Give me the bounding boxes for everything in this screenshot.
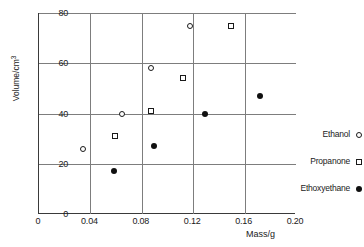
- x-tick-label: 0.12: [170, 217, 214, 226]
- legend-item-label: Ethanol: [323, 130, 350, 139]
- gridline-vertical: [90, 13, 91, 214]
- legend-marker-glyph: [356, 159, 362, 165]
- x-tick-label: 0.08: [119, 217, 163, 226]
- legend-item-ethanol[interactable]: Ethanol: [323, 130, 362, 139]
- data-point-ethanol: [187, 23, 193, 29]
- legend-marker-open-square-icon: [355, 158, 362, 165]
- data-point-propanone: [228, 23, 234, 29]
- y-tick-label: 80: [28, 9, 68, 18]
- gridline-horizontal: [39, 164, 296, 165]
- x-tick-label: 0.04: [67, 217, 111, 226]
- gridline-horizontal: [39, 13, 296, 14]
- gridline-vertical: [245, 13, 246, 214]
- data-point-ethoxyethane: [202, 111, 208, 117]
- x-tick-label: 0.16: [222, 217, 266, 226]
- legend-marker-filled-circle-icon: [355, 185, 362, 192]
- data-point-propanone: [148, 108, 154, 114]
- data-point-ethoxyethane: [151, 143, 157, 149]
- y-axis-title: Volume/cm3: [9, 35, 22, 121]
- legend-item-ethoxyethane[interactable]: Ethoxyethane: [300, 184, 362, 193]
- legend-item-label: Ethoxyethane: [300, 184, 350, 193]
- gridline-horizontal: [39, 63, 296, 64]
- legend-item-propanone[interactable]: Propanone: [310, 157, 362, 166]
- data-point-ethanol: [119, 111, 125, 117]
- legend-item-label: Propanone: [310, 157, 350, 166]
- x-tick-label: 0.20: [273, 217, 317, 226]
- data-point-ethanol: [80, 146, 86, 152]
- y-tick-label: 60: [28, 59, 68, 68]
- data-point-propanone: [180, 75, 186, 81]
- gridline-vertical: [142, 13, 143, 214]
- gridline-vertical: [193, 13, 194, 214]
- gridline-horizontal: [39, 114, 296, 115]
- legend-marker-glyph: [356, 132, 362, 138]
- x-axis-title: Mass/g: [246, 230, 275, 239]
- y-tick-label: 40: [28, 110, 68, 119]
- legend-marker-open-circle-icon: [355, 131, 362, 138]
- scatter-chart-figure: Volume/cm3 Mass/g 020406080 00.040.080.1…: [0, 0, 364, 247]
- y-tick-label: 20: [28, 160, 68, 169]
- data-point-propanone: [112, 133, 118, 139]
- x-tick-label: 0: [16, 217, 60, 226]
- legend-marker-glyph: [356, 186, 362, 192]
- plot-area: [38, 13, 295, 214]
